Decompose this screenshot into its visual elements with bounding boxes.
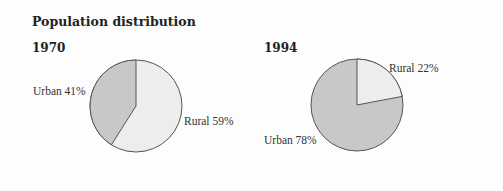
pie-1970-urban-label: Urban 41% (33, 85, 86, 97)
pie-1970 (90, 60, 182, 152)
pie-1994-urban-label: Urban 78% (264, 134, 317, 146)
pie-1994-rural-label: Rural 22% (389, 62, 439, 74)
pie-1970-rural-label: Rural 59% (184, 115, 234, 127)
